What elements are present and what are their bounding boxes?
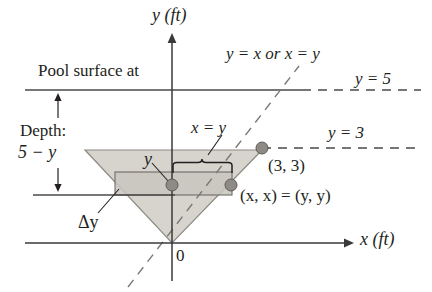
- figure-canvas: y (ft) y = x or x = y Pool surface at y …: [0, 0, 432, 292]
- delta-y-text: Δy: [78, 212, 99, 232]
- y-equals-5-label: y = 5: [355, 70, 391, 87]
- vertex-dot-3-3: [256, 142, 268, 154]
- strip-edge-dot: [225, 179, 237, 191]
- x-axis-label: x (ft): [360, 230, 394, 248]
- origin-label: 0: [176, 247, 185, 264]
- depth-arrow-down: [54, 168, 61, 192]
- depth-arrow-up: [54, 93, 61, 118]
- delta-y-leader: [98, 189, 119, 213]
- x-axis: [25, 239, 354, 248]
- strip-center-dot: [166, 179, 178, 191]
- y-axis-label: y (ft): [152, 6, 186, 24]
- half-width-label: y: [144, 150, 152, 168]
- depth-value-label: 5 − y: [18, 143, 56, 161]
- y-equals-3-label: y = 3: [328, 124, 364, 141]
- vertex-point-label: (3, 3): [268, 157, 305, 174]
- identity-line-label: y = x or x = y: [226, 45, 320, 62]
- x-axis-label-text: x (ft): [360, 229, 394, 249]
- x-equals-y-label: x = y: [191, 119, 226, 136]
- point-identity-label: (x, x) = (y, y): [240, 187, 331, 204]
- y-axis-label-text: y (ft): [152, 5, 186, 25]
- pool-surface-label: Pool surface at: [38, 62, 139, 79]
- depth-title-label: Depth:: [20, 122, 66, 139]
- delta-y-label: Δy: [78, 213, 99, 231]
